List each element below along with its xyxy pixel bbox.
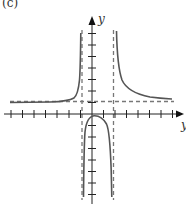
rational-function-graph [0,0,186,210]
curve-right-branch [117,31,173,99]
y-axis-label: y [98,12,105,26]
panel-label: (c) [2,0,18,10]
x-axis-label: y [181,118,186,132]
x-axis-arrow-icon [176,111,184,118]
y-axis [88,16,96,204]
curve-middle-branch [84,116,112,197]
curve-left-branch [10,33,81,103]
x-axis [4,110,184,118]
y-axis-arrow-icon [89,16,96,25]
